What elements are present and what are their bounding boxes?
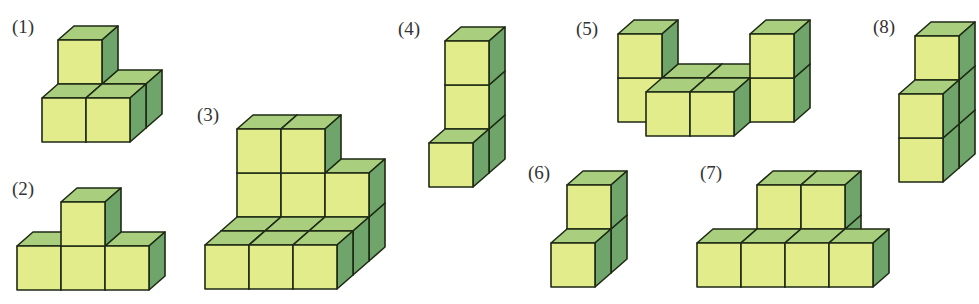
- cube-figure-8: [0, 0, 979, 304]
- cube: [915, 22, 975, 80]
- cube: [899, 80, 959, 138]
